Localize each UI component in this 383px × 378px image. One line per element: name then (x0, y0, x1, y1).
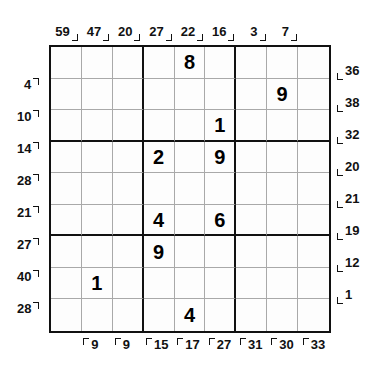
grid-cell-r4c7[interactable] (236, 142, 267, 174)
grid-cell-r7c1[interactable] (51, 236, 82, 268)
grid-cell-r1c5[interactable]: 8 (175, 47, 206, 79)
grid-cell-r6c1[interactable] (51, 205, 82, 237)
grid-cell-r1c2[interactable] (82, 47, 113, 79)
grid-cell-r9c6[interactable] (205, 299, 236, 331)
grid-cell-r6c6[interactable]: 6 (205, 205, 236, 237)
grid-cell-r5c1[interactable] (51, 173, 82, 205)
grid-cell-r6c2[interactable] (82, 205, 113, 237)
grid-cell-r9c5[interactable]: 4 (175, 299, 206, 331)
grid-cell-r2c2[interactable] (82, 79, 113, 111)
clue-value: 21 (345, 192, 359, 205)
grid-cell-r6c7[interactable] (236, 205, 267, 237)
grid-cell-r7c9[interactable] (298, 236, 329, 268)
grid-cell-r7c5[interactable] (175, 236, 206, 268)
grid-cell-r1c8[interactable] (267, 47, 298, 79)
clue-value: 7 (282, 25, 289, 38)
grid-cell-r5c3[interactable] (113, 173, 144, 205)
grid-cell-r4c2[interactable] (82, 142, 113, 174)
grid-cell-r7c2[interactable] (82, 236, 113, 268)
grid-cell-r7c3[interactable] (113, 236, 144, 268)
grid-cell-r9c8[interactable] (267, 299, 298, 331)
grid-cell-r9c1[interactable] (51, 299, 82, 331)
grid-cell-r5c4[interactable] (144, 173, 175, 205)
grid-cell-r9c9[interactable] (298, 299, 329, 331)
grid-cell-r3c4[interactable] (144, 110, 175, 142)
clue-left-row3: 10 (17, 110, 39, 126)
grid-cell-r2c3[interactable] (113, 79, 144, 111)
grid-cell-r4c3[interactable] (113, 142, 144, 174)
clue-value: 22 (181, 25, 195, 38)
grid-cell-r5c2[interactable] (82, 173, 113, 205)
grid-cell-r3c3[interactable] (113, 110, 144, 142)
grid-cell-r3c6[interactable]: 1 (205, 110, 236, 142)
grid-cell-r2c4[interactable] (144, 79, 175, 111)
grid-cell-r6c5[interactable] (175, 205, 206, 237)
grid-cell-r8c8[interactable] (267, 268, 298, 300)
grid-cell-r8c3[interactable] (113, 268, 144, 300)
grid-cell-r6c4[interactable]: 4 (144, 205, 175, 237)
grid-cell-r9c7[interactable] (236, 299, 267, 331)
grid-cell-r1c1[interactable] (51, 47, 82, 79)
grid-cell-r2c5[interactable] (175, 79, 206, 111)
grid-cell-r4c1[interactable] (51, 142, 82, 174)
clue-left-row5: 28 (17, 174, 39, 190)
grid-cell-r9c2[interactable] (82, 299, 113, 331)
clue-corner-tick-icon (134, 34, 140, 41)
grid-cell-r4c4[interactable]: 2 (144, 142, 175, 174)
grid-cell-r1c6[interactable] (205, 47, 236, 79)
grid-cell-r8c9[interactable] (298, 268, 329, 300)
grid-cell-r5c5[interactable] (175, 173, 206, 205)
grid-cell-r3c5[interactable] (175, 110, 206, 142)
grid-cell-r8c7[interactable] (236, 268, 267, 300)
grid-cell-r6c8[interactable] (267, 205, 298, 237)
grid-cell-r8c5[interactable] (175, 268, 206, 300)
grid-cell-r6c9[interactable] (298, 205, 329, 237)
grid-cell-r7c8[interactable] (267, 236, 298, 268)
grid-cell-r2c8[interactable]: 9 (267, 79, 298, 111)
clue-top-col2: 47 (87, 22, 109, 38)
grid-cell-r4c9[interactable] (298, 142, 329, 174)
grid-cell-r3c8[interactable] (267, 110, 298, 142)
grid-cell-r2c7[interactable] (236, 79, 267, 111)
clue-bottom-col9: 33 (303, 338, 325, 354)
grid-cell-r9c4[interactable] (144, 299, 175, 331)
grid-cell-r2c1[interactable] (51, 79, 82, 111)
grid-cell-r5c7[interactable] (236, 173, 267, 205)
grid-cell-r4c5[interactable] (175, 142, 206, 174)
grid-cell-r8c6[interactable] (205, 268, 236, 300)
grid-cell-r3c1[interactable] (51, 110, 82, 142)
grid-cell-r2c9[interactable] (298, 79, 329, 111)
grid-cell-r9c3[interactable] (113, 299, 144, 331)
grid-cell-r5c6[interactable] (205, 173, 236, 205)
grid-cell-r8c1[interactable] (51, 268, 82, 300)
clue-top-col5: 22 (181, 22, 203, 38)
grid-cell-r7c7[interactable] (236, 236, 267, 268)
grid-cell-r1c9[interactable] (298, 47, 329, 79)
grid-cell-r7c4[interactable]: 9 (144, 236, 175, 268)
grid-cell-r4c8[interactable] (267, 142, 298, 174)
grid-cell-r1c4[interactable] (144, 47, 175, 79)
grid-cell-r5c9[interactable] (298, 173, 329, 205)
grid-cell-r3c7[interactable] (236, 110, 267, 142)
clue-value: 4 (24, 78, 31, 91)
grid-cell-r5c8[interactable] (267, 173, 298, 205)
grid-cell-r3c9[interactable] (298, 110, 329, 142)
clue-corner-tick-icon (271, 338, 277, 345)
sum-sudoku-puzzle: 5947202722163741014282127402836383220211… (0, 0, 383, 378)
clue-corner-tick-icon (33, 174, 39, 181)
grid-cell-r8c2[interactable]: 1 (82, 268, 113, 300)
grid-cell-r6c3[interactable] (113, 205, 144, 237)
grid-cell-r4c6[interactable]: 9 (205, 142, 236, 174)
grid-cell-r2c6[interactable] (205, 79, 236, 111)
grid-cell-r3c2[interactable] (82, 110, 113, 142)
grid-cell-r1c7[interactable] (236, 47, 267, 79)
cell-digit: 2 (153, 147, 164, 167)
grid-cell-r7c6[interactable] (205, 236, 236, 268)
clue-value: 20 (345, 160, 359, 173)
sudoku-grid[interactable]: 8912946914 (49, 45, 331, 333)
grid-cell-r1c3[interactable] (113, 47, 144, 79)
clue-corner-tick-icon (209, 338, 215, 345)
clue-corner-tick-icon (337, 73, 343, 80)
grid-cell-r8c4[interactable] (144, 268, 175, 300)
clue-corner-tick-icon (337, 201, 343, 208)
